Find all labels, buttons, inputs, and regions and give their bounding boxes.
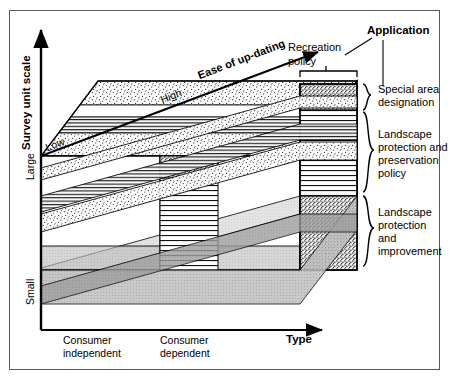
callout-landscape-preservation-line3: preservation	[378, 154, 439, 166]
x-axis-tick-consumer-dependent-line1: Consumer	[160, 335, 208, 347]
brace-landscape-improvement	[363, 196, 374, 266]
callout-landscape-preservation-line1: Landscape	[378, 128, 432, 140]
y-axis-tick-small: Small	[25, 279, 37, 305]
brace-special-area	[363, 84, 371, 110]
figure-canvas: Survey unit scale Large Small Ease of up…	[0, 0, 452, 386]
y-axis-title: Survey unit scale	[20, 55, 33, 150]
x-axis-title: Type	[286, 333, 312, 346]
callout-landscape-improvement-line3: and	[378, 232, 396, 244]
y-axis-tick-large: Large	[25, 153, 37, 180]
brace-landscape-preservation	[363, 112, 374, 192]
leader-line-recreation	[345, 38, 372, 55]
callout-landscape-preservation-line4: policy	[378, 167, 406, 179]
callout-landscape-improvement-line2: protection	[378, 219, 426, 231]
recreation-policy-brace	[300, 66, 357, 77]
application-header: Application	[367, 24, 430, 37]
callout-landscape-improvement-line1: Landscape	[378, 206, 432, 218]
x-axis-tick-consumer-independent-line2: independent	[63, 348, 121, 360]
x-axis-tick-consumer-independent-line1: Consumer	[63, 335, 111, 347]
callout-landscape-preservation-line2: protection and	[378, 141, 448, 153]
callout-special-area-line2: designation	[378, 96, 434, 108]
x-axis-tick-consumer-dependent-line2: dependent	[160, 348, 210, 360]
callout-landscape-improvement-line4: improvement	[378, 245, 442, 257]
recreation-policy-label-line1: Recreation	[288, 41, 341, 53]
recreation-policy-label-line2: policy	[288, 55, 316, 67]
callout-special-area-line1: Special area	[378, 83, 439, 95]
